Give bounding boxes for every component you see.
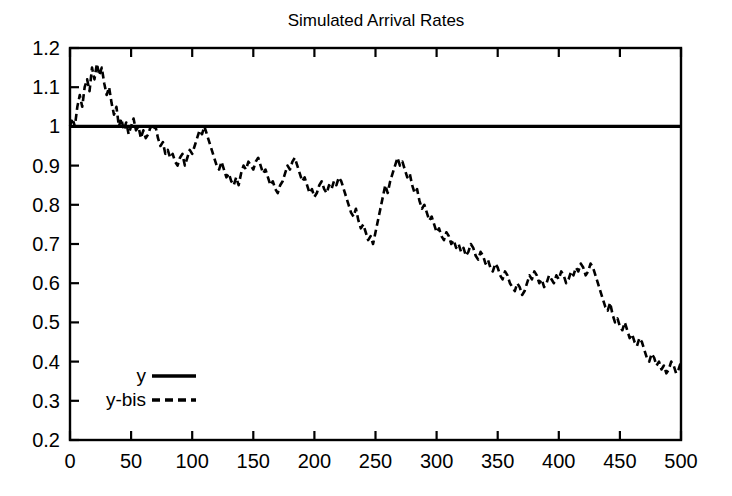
x-tick-label: 450 xyxy=(603,450,636,472)
y-tick-label: 1.1 xyxy=(32,76,60,98)
chart-background xyxy=(0,0,732,496)
x-tick-label: 0 xyxy=(64,450,75,472)
x-tick-label: 400 xyxy=(542,450,575,472)
legend-label-y-bis: y-bis xyxy=(106,389,146,410)
y-tick-label: 0.3 xyxy=(32,390,60,412)
x-tick-label: 300 xyxy=(420,450,453,472)
x-tick-label: 500 xyxy=(664,450,697,472)
y-tick-label: 0.6 xyxy=(32,272,60,294)
x-tick-label: 150 xyxy=(237,450,270,472)
x-tick-label: 100 xyxy=(176,450,209,472)
x-tick-label: 200 xyxy=(298,450,331,472)
y-tick-label: 0.5 xyxy=(32,311,60,333)
simulated-arrival-rates-chart: Simulated Arrival Rates 0.20.30.40.50.60… xyxy=(0,0,732,496)
y-tick-label: 0.8 xyxy=(32,194,60,216)
y-tick-label: 0.7 xyxy=(32,233,60,255)
y-tick-label: 0.4 xyxy=(32,351,60,373)
x-tick-label: 50 xyxy=(120,450,142,472)
y-tick-label: 0.2 xyxy=(32,429,60,451)
y-tick-label: 1.2 xyxy=(32,37,60,59)
y-tick-label: 1 xyxy=(49,115,60,137)
legend-label-y: y xyxy=(137,365,147,386)
chart-title: Simulated Arrival Rates xyxy=(288,11,465,30)
x-tick-label: 350 xyxy=(481,450,514,472)
chart-figure: Simulated Arrival Rates 0.20.30.40.50.60… xyxy=(0,0,732,496)
x-tick-label: 250 xyxy=(359,450,392,472)
y-tick-label: 0.9 xyxy=(32,155,60,177)
